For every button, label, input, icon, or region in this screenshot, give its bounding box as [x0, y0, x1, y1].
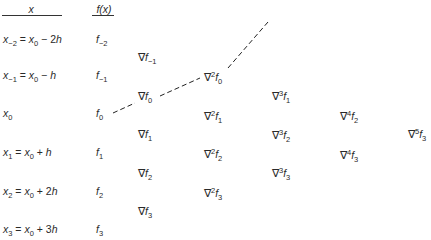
x-value-row-3: x1 = x0 + h	[3, 147, 52, 161]
difference-d1-2: ∇f1	[138, 129, 152, 143]
difference-d2-3: ∇2f3	[204, 187, 222, 202]
difference-d3-1: ∇3f2	[272, 129, 290, 144]
f-value-row-3: f1	[96, 147, 103, 161]
x-value-row-1: x−1 = x0 − h	[3, 70, 56, 84]
difference-d3-2: ∇3f3	[272, 167, 290, 182]
f-value-row-5: f3	[96, 224, 103, 238]
difference-d4-0: ∇4f2	[340, 110, 358, 125]
difference-d5-0: ∇5f3	[408, 128, 426, 143]
difference-d4-1: ∇4f3	[340, 149, 358, 164]
difference-d1-0: ∇f−1	[138, 52, 156, 66]
f-value-row-4: f2	[96, 186, 103, 200]
difference-d1-1: ∇f0	[138, 91, 152, 105]
difference-d1-4: ∇f3	[138, 206, 152, 220]
difference-d3-0: ∇3f1	[272, 90, 290, 105]
f-value-row-1: f−1	[96, 70, 107, 84]
difference-d2-0: ∇2f0	[204, 71, 222, 86]
difference-d2-2: ∇2f2	[204, 148, 222, 163]
f-value-row-2: f0	[96, 108, 103, 122]
difference-d1-3: ∇f2	[138, 168, 152, 182]
difference-d2-1: ∇2f1	[204, 110, 222, 125]
x-value-row-0: x−2 = x0 − 2h	[3, 34, 62, 48]
f-value-row-0: f−2	[96, 34, 107, 48]
x-value-row-4: x2 = x0 + 2h	[3, 186, 57, 200]
x-value-row-2: x0	[3, 108, 12, 122]
x-value-row-5: x3 = x0 + 3h	[3, 224, 57, 238]
